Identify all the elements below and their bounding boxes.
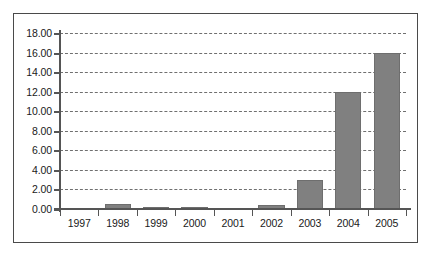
x-axis-tick: [137, 210, 138, 216]
x-axis-label-2004: 2004: [329, 217, 367, 230]
x-axis-label-1997: 1997: [60, 217, 98, 230]
x-axis-tick: [214, 210, 215, 216]
y-axis-tick: [54, 33, 61, 35]
y-axis-tick-label: 8.00: [8, 126, 52, 136]
y-axis-tick: [54, 150, 61, 152]
bar-2004[interactable]: [335, 92, 361, 209]
x-axis-label-2001: 2001: [214, 217, 252, 230]
x-axis-line: [54, 208, 411, 210]
y-axis-tick: [54, 92, 61, 94]
y-axis-tick-label: 14.00: [8, 67, 52, 77]
y-axis-tick-label: 16.00: [8, 48, 52, 58]
x-axis-tick: [406, 210, 407, 216]
x-axis-tick: [368, 210, 369, 216]
y-axis-labels: 18.0016.0014.0012.0010.008.006.004.002.0…: [14, 33, 52, 209]
y-axis-tick-label: 4.00: [8, 165, 52, 175]
x-axis-label-1999: 1999: [137, 217, 175, 230]
x-axis-label-1998: 1998: [98, 217, 136, 230]
x-axis-tick: [329, 210, 330, 216]
x-axis-label-2005: 2005: [368, 217, 406, 230]
x-axis-label-2000: 2000: [175, 217, 213, 230]
bar-slot-1997: [60, 33, 98, 209]
plot-area: [60, 33, 406, 209]
bar-slot-2004: [329, 33, 367, 209]
y-axis-tick-label: 6.00: [8, 145, 52, 155]
x-axis-tick: [291, 210, 292, 216]
x-axis-label-2003: 2003: [291, 217, 329, 230]
y-axis-tick: [54, 53, 61, 55]
y-axis-line: [59, 30, 61, 212]
bar-slot-1999: [137, 33, 175, 209]
x-axis-tick: [98, 210, 99, 216]
y-axis-tick: [54, 189, 61, 191]
bar-slot-2000: [175, 33, 213, 209]
y-axis-tick-label: 18.00: [8, 28, 52, 38]
x-axis-tick: [252, 210, 253, 216]
y-axis-tick: [54, 209, 61, 211]
y-axis-tick: [54, 111, 61, 113]
x-axis-tick: [175, 210, 176, 216]
y-axis-tick: [54, 131, 61, 133]
chart-frame: 18.0016.0014.0012.0010.008.006.004.002.0…: [13, 13, 418, 243]
bar-slot-1998: [98, 33, 136, 209]
x-axis-label-2002: 2002: [252, 217, 290, 230]
bar-slot-2001: [214, 33, 252, 209]
bar-slot-2003: [291, 33, 329, 209]
y-axis-tick: [54, 170, 61, 172]
y-axis-tick-label: 12.00: [8, 87, 52, 97]
y-axis-tick: [54, 72, 61, 74]
y-axis-tick-label: 0.00: [8, 204, 52, 214]
bar-2005[interactable]: [374, 53, 400, 209]
y-axis-tick-label: 2.00: [8, 184, 52, 194]
bar-2003[interactable]: [297, 180, 323, 209]
y-axis-tick-label: 10.00: [8, 106, 52, 116]
bar-slot-2005: [368, 33, 406, 209]
bar-slot-2002: [252, 33, 290, 209]
